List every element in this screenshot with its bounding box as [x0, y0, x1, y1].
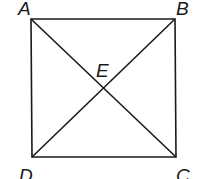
label-C: C — [176, 165, 190, 179]
label-B: B — [176, 0, 189, 19]
label-A: A — [17, 0, 31, 19]
square-diagram: A B E D C — [0, 0, 199, 179]
label-E: E — [96, 60, 109, 81]
label-D: D — [19, 165, 33, 179]
